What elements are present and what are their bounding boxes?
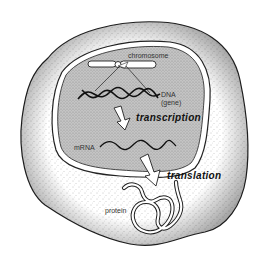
chromosome-label: chromosome xyxy=(128,52,168,59)
transcription-label: transcription xyxy=(136,113,201,123)
mrna-label: mRNA xyxy=(74,144,95,151)
dna-label: DNA xyxy=(161,91,176,98)
gene-label: (gene) xyxy=(161,99,181,106)
protein-label: protein xyxy=(105,207,126,214)
diagram-canvas: chromosome DNA (gene) transcription mRNA… xyxy=(0,0,267,260)
translation-label: translation xyxy=(167,171,221,181)
cell-illustration xyxy=(0,0,267,260)
